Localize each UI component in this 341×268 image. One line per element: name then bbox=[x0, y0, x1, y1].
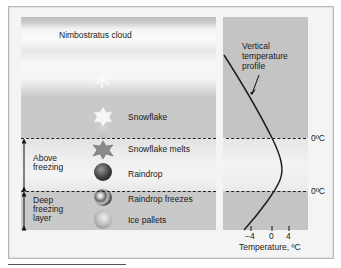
axis-label: Temperature, ºC bbox=[239, 243, 301, 252]
tick-label-0: 0 bbox=[269, 232, 274, 241]
tick-label-4: 4 bbox=[286, 232, 291, 241]
temperature-profile-curve bbox=[0, 0, 341, 268]
caption-rule bbox=[8, 264, 126, 265]
tick-label-minus4: −4 bbox=[245, 232, 255, 241]
